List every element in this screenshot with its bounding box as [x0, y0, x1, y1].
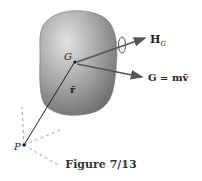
point-p-label: P: [14, 141, 21, 152]
reference-axes: [22, 107, 60, 165]
position-vector-label: r̄: [70, 84, 75, 95]
rigid-body-diagram: [0, 0, 202, 181]
linear-momentum-label: G = mv̄: [148, 72, 188, 83]
point-p: [22, 143, 25, 146]
figure-caption: Figure 7/13: [0, 158, 202, 171]
center-of-mass-label: G: [64, 51, 72, 62]
angular-momentum-symbol: H: [150, 33, 160, 46]
center-of-mass-point: [73, 60, 76, 63]
angular-momentum-label: HG: [150, 33, 166, 48]
angular-momentum-subscript: G: [160, 40, 166, 48]
